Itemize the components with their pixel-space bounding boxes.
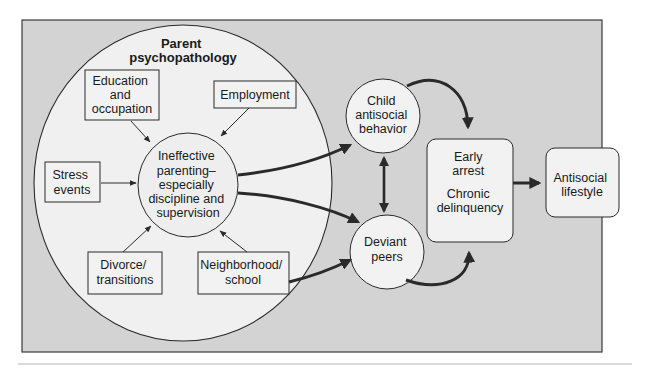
node-deviant-peers: Deviant peers xyxy=(350,215,424,289)
diagram-canvas: Parent psychopathology Education and occ… xyxy=(0,0,649,370)
node-child-antisocial: Child antisocial behavior xyxy=(346,79,420,153)
node-employment: Employment xyxy=(214,81,296,108)
node-education: Education and occupation xyxy=(85,70,159,120)
node-stress: Stress events xyxy=(45,162,100,202)
node-antisocial-lifestyle: Antisocial lifestyle xyxy=(546,148,619,217)
node-early-arrest: Early arrest Chronic delinquency xyxy=(427,139,513,242)
svg-text:Stress events: Stress events xyxy=(53,168,92,197)
svg-text:Ineffective parenting–: Ineffective parenting– especially discip… xyxy=(148,149,227,220)
svg-text:Employment: Employment xyxy=(220,88,290,102)
node-parenting: Ineffective parenting– especially discip… xyxy=(138,133,238,237)
node-divorce: Divorce/ transitions xyxy=(88,252,162,294)
svg-text:Antisocial lifestyle: Antisocial lifestyle xyxy=(554,171,611,199)
svg-text:Divorce/ transitions: Divorce/ transitions xyxy=(97,258,154,287)
node-neighborhood: Neighborhood/ school xyxy=(198,252,289,294)
